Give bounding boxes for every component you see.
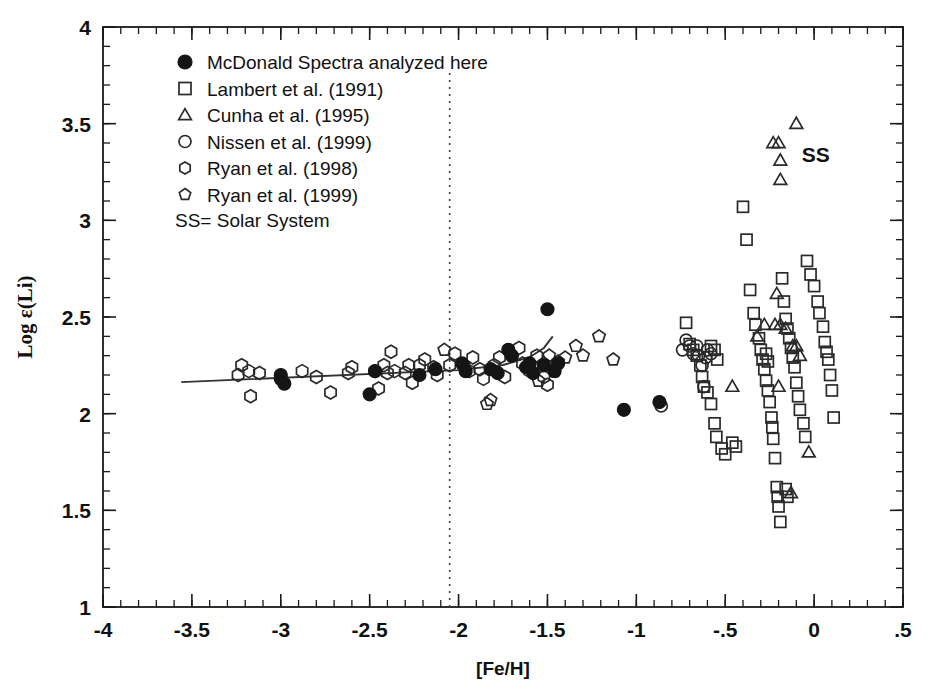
y-tick-label: 4 — [79, 16, 91, 39]
data-point — [385, 345, 396, 358]
y-tick-label: 1 — [79, 596, 91, 619]
x-tick-label: -1.5 — [529, 618, 566, 641]
data-point — [429, 363, 442, 376]
axis-ticks: -4-3.5-3-2.5-2-1.5-1-.50.511.522.533.54 — [62, 16, 912, 641]
x-tick-label: -3 — [271, 618, 290, 641]
data-point — [617, 403, 630, 416]
data-point — [438, 343, 450, 355]
plot-legend: McDonald Spectra analyzed hereLambert et… — [175, 52, 488, 231]
data-point — [653, 396, 666, 409]
data-point — [541, 303, 554, 316]
data-point — [798, 418, 809, 429]
legend-marker-open-circle — [179, 136, 191, 148]
data-point — [607, 353, 619, 365]
lithium-abundance-scatter-figure: -4-3.5-3-2.5-2-1.5-1-.50.511.522.533.54[… — [0, 0, 931, 698]
data-point — [369, 365, 382, 378]
legend-marker-open-pentagon — [179, 189, 190, 200]
x-tick-label: -3.5 — [174, 618, 211, 641]
legend-marker-open-triangle — [179, 109, 192, 120]
data-point — [243, 365, 254, 378]
data-point — [389, 365, 400, 378]
data-point — [768, 433, 779, 444]
x-axis-title: [Fe/H] — [476, 658, 530, 679]
data-point — [775, 516, 786, 527]
data-point — [805, 269, 816, 280]
legend-label: Cunha et al. (1995) — [207, 105, 370, 126]
data-point — [570, 340, 582, 352]
legend-marker-open-square — [179, 83, 191, 95]
data-point — [745, 284, 756, 295]
data-point — [706, 399, 717, 410]
data-point — [741, 234, 752, 245]
data-point — [814, 308, 825, 319]
data-point — [826, 385, 837, 396]
x-tick-label: -1 — [627, 618, 646, 641]
data-point — [245, 390, 256, 403]
data-point — [812, 296, 823, 307]
data-point — [403, 359, 414, 372]
data-point — [793, 391, 804, 402]
data-point — [825, 370, 836, 381]
data-point — [802, 255, 813, 266]
series-lambert-et-al-1991 — [681, 201, 840, 527]
data-point — [363, 388, 376, 401]
data-point — [802, 446, 815, 457]
x-tick-label: .5 — [894, 618, 912, 641]
data-point — [738, 201, 749, 212]
legend-label: Nissen et al. (1999) — [207, 132, 372, 153]
legend-label: Ryan et al. (1998) — [207, 158, 358, 179]
data-point — [593, 330, 605, 342]
y-tick-label: 2 — [79, 403, 91, 426]
data-point — [296, 365, 307, 378]
data-point — [709, 418, 720, 429]
legend-label: Ryan et al. (1999) — [207, 185, 358, 206]
y-tick-label: 2.5 — [62, 306, 92, 329]
legend-note-solar-system: SS= Solar System — [175, 210, 330, 231]
data-point — [790, 117, 803, 128]
data-point — [800, 431, 811, 442]
legend-marker-filled-circle — [178, 55, 192, 69]
data-point — [794, 404, 805, 415]
y-tick-label: 1.5 — [62, 499, 92, 522]
data-point — [254, 367, 265, 380]
data-point — [818, 321, 829, 332]
x-tick-label: -4 — [94, 618, 113, 641]
x-tick-label: 0 — [808, 618, 820, 641]
data-point — [764, 397, 775, 408]
data-point — [681, 317, 692, 328]
data-point — [770, 287, 783, 298]
data-point — [730, 441, 741, 452]
data-point — [777, 273, 788, 284]
data-point — [505, 349, 518, 362]
x-tick-label: -2 — [449, 618, 468, 641]
x-tick-label: -.5 — [713, 618, 738, 641]
data-point — [809, 281, 820, 292]
data-point — [748, 308, 759, 319]
data-point — [278, 377, 291, 390]
x-tick-label: -2.5 — [352, 618, 389, 641]
plot-canvas: -4-3.5-3-2.5-2-1.5-1-.50.511.522.533.54[… — [0, 0, 931, 698]
data-point — [459, 365, 472, 378]
data-point — [791, 377, 802, 388]
data-point — [774, 173, 787, 184]
data-point — [552, 357, 565, 370]
legend-marker-open-hexagon — [180, 162, 190, 174]
legend-label: McDonald Spectra analyzed here — [207, 52, 488, 73]
y-tick-label: 3 — [79, 209, 91, 232]
data-point — [770, 453, 781, 464]
y-axis-title: Log ε(Li) — [13, 275, 37, 358]
legend-label: Lambert et al. (1991) — [207, 79, 383, 100]
data-point — [491, 367, 504, 380]
y-tick-label: 3.5 — [62, 113, 92, 136]
data-point — [413, 369, 426, 382]
data-point — [727, 437, 738, 448]
data-point — [325, 386, 336, 399]
data-point — [481, 398, 493, 410]
solar-system-label: SS — [802, 143, 830, 166]
data-point — [726, 380, 739, 391]
data-point — [711, 431, 722, 442]
data-point — [828, 412, 839, 423]
data-point — [774, 154, 787, 165]
